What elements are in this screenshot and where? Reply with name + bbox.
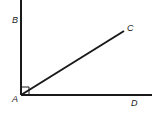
ray-ac [21,31,124,95]
geometry-diagram: B C A D [0,0,164,116]
label-d: D [131,98,138,108]
label-a: A [11,94,18,104]
label-b: B [12,15,18,25]
label-c: C [127,23,134,33]
